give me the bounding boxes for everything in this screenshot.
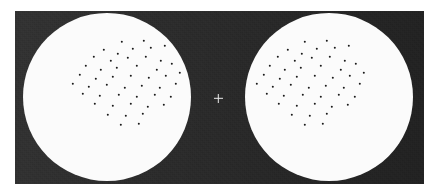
stimulus-dot: [290, 84, 292, 86]
stimulus-dot: [278, 103, 280, 105]
stimulus-dot: [304, 124, 306, 126]
stimulus-dot: [283, 95, 285, 97]
stimulus-dot: [347, 104, 349, 106]
stimulus-dot: [348, 45, 350, 47]
stimulus-dot: [269, 65, 271, 67]
stimulus-dot: [314, 103, 316, 105]
stimulus-dot: [340, 69, 342, 71]
stimulus-dot: [300, 67, 302, 69]
stimulus-dot: [325, 85, 327, 87]
stimulus-dot: [272, 86, 274, 88]
stimulus-dot: [301, 53, 303, 55]
stimulus-dot: [329, 56, 331, 58]
stimulus-dot: [344, 60, 346, 62]
stimulus-figure: [0, 0, 437, 195]
stimulus-dot: [331, 106, 333, 108]
stimulus-dot: [316, 48, 318, 50]
stimulus-dot: [311, 57, 313, 59]
stimulus-dot: [284, 69, 286, 71]
stimulus-dot: [296, 105, 298, 107]
stimulus-dot: [294, 60, 296, 62]
stimulus-dot: [287, 49, 289, 51]
stimulus-dot: [296, 76, 298, 78]
stimulus-dot: [363, 72, 365, 74]
stimulus-dot: [266, 93, 268, 95]
stimulus-dot: [359, 83, 361, 85]
stimulus-dot: [322, 123, 324, 125]
fixation-cross-vertical-bar: [217, 94, 218, 103]
stimulus-dot: [326, 40, 328, 42]
stimulus-dot: [332, 77, 334, 79]
stimulus-dot: [320, 65, 322, 67]
dark-surround-panel: [15, 11, 424, 184]
stimulus-dot: [277, 56, 279, 58]
stimulus-dot: [302, 94, 304, 96]
stimulus-dot: [320, 96, 322, 98]
stimulus-dot: [308, 87, 310, 89]
stimulus-dot: [263, 74, 265, 76]
stimulus-dot: [334, 47, 336, 49]
stimulus-dot: [309, 115, 311, 117]
stimulus-dot: [256, 83, 258, 85]
stimulus-dot: [349, 75, 351, 77]
stimulus-dot: [354, 96, 356, 98]
stimulus-dot: [279, 78, 281, 80]
stimulus-dot: [338, 94, 340, 96]
stimulus-dot: [355, 63, 357, 65]
stimulus-dot: [326, 113, 328, 115]
stimulus-dot: [343, 87, 345, 89]
stimulus-dot: [314, 75, 316, 77]
stimulus-dot: [291, 114, 293, 116]
stimulus-dot: [304, 41, 306, 43]
fixation-cross-icon: [214, 94, 223, 103]
